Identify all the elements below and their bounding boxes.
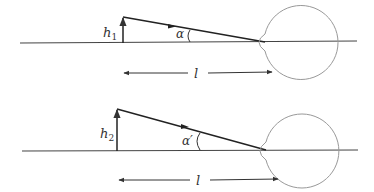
panel-top: h1 α l [20, 6, 357, 82]
distance-arrow-right-top [208, 72, 272, 73]
label-distance-bottom: l [196, 173, 200, 188]
ray-direction-arrow-top [168, 24, 176, 29]
angle-arc-alpha-prime [197, 133, 200, 150]
panel-bottom: h2 α′ l [22, 109, 358, 188]
distance-arrow-right-bottom [210, 179, 278, 180]
label-h1: h1 [103, 25, 117, 42]
baseline-top [20, 41, 357, 43]
eye-angle-diagram: h1 α l h2 α′ l [0, 0, 374, 192]
sight-ray-top [123, 17, 265, 42]
eye-top [259, 6, 338, 80]
label-alpha: α [176, 27, 184, 41]
label-h2: h2 [100, 126, 114, 143]
eye-bottom [260, 114, 339, 188]
angle-arc-alpha [188, 30, 190, 42]
label-alpha-prime: α′ [182, 134, 193, 148]
label-distance-top: l [194, 66, 198, 81]
baseline-bottom [22, 150, 358, 151]
